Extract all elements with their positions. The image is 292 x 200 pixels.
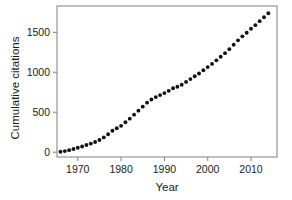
data-point <box>188 77 192 81</box>
data-point <box>115 126 119 130</box>
data-point <box>245 31 249 35</box>
data-point <box>206 65 210 69</box>
data-point <box>93 140 97 144</box>
data-point <box>98 138 102 142</box>
data-point <box>223 51 227 55</box>
data-point <box>145 101 149 105</box>
y-tick-label: 1000 <box>27 66 51 78</box>
scatter-plot-svg: 19701980199020002010 050010001500 Year C… <box>0 0 292 200</box>
y-axis-title: Cumulative citations <box>9 36 21 139</box>
data-point <box>227 47 231 51</box>
data-point <box>167 89 171 93</box>
data-point <box>210 62 214 66</box>
data-point <box>67 148 71 152</box>
data-point <box>128 117 132 121</box>
data-point <box>171 86 175 90</box>
y-tick-label: 0 <box>44 146 50 158</box>
data-point <box>236 38 240 42</box>
data-point <box>219 55 223 59</box>
data-point <box>123 120 127 124</box>
data-point <box>180 83 184 87</box>
data-point <box>197 72 201 76</box>
x-axis-title: Year <box>155 181 178 193</box>
data-point <box>72 147 76 151</box>
data-point <box>266 11 270 15</box>
data-point <box>80 145 84 149</box>
citation-chart-figure: 19701980199020002010 050010001500 Year C… <box>0 0 292 200</box>
data-point <box>85 143 89 147</box>
data-point <box>162 91 166 95</box>
data-point <box>119 124 123 128</box>
data-point <box>214 58 218 62</box>
data-point <box>201 68 205 72</box>
data-point <box>154 95 158 99</box>
data-point <box>132 113 136 117</box>
data-point <box>149 98 153 102</box>
x-tick-label: 1990 <box>153 163 177 175</box>
data-point <box>102 135 106 139</box>
y-tick-label: 1500 <box>27 26 51 38</box>
x-tick-label: 2000 <box>196 163 220 175</box>
data-point <box>106 132 110 136</box>
x-tick-label: 1970 <box>66 163 90 175</box>
data-point <box>158 93 162 97</box>
x-tick-label: 1980 <box>109 163 133 175</box>
data-point <box>63 149 67 153</box>
data-point <box>136 109 140 113</box>
data-point <box>141 105 145 109</box>
data-point <box>262 15 266 19</box>
data-point <box>258 19 262 23</box>
data-point <box>89 142 93 146</box>
data-point <box>240 34 244 38</box>
data-point <box>193 74 197 78</box>
data-point <box>184 80 188 84</box>
data-point <box>76 146 80 150</box>
data-point <box>232 43 236 47</box>
data-point <box>249 27 253 31</box>
data-point <box>253 23 257 27</box>
data-point <box>175 85 179 89</box>
y-tick-label: 500 <box>32 106 50 118</box>
x-tick-label: 2010 <box>239 163 263 175</box>
data-point <box>59 150 63 154</box>
data-point <box>110 129 114 133</box>
